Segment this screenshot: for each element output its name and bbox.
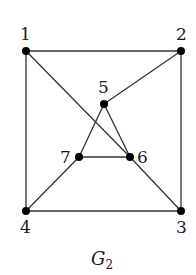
edge-5-7 xyxy=(79,104,104,157)
node-5 xyxy=(100,100,108,108)
node-2 xyxy=(177,47,185,55)
node-label-3: 3 xyxy=(176,217,187,237)
graph-title: G2 xyxy=(91,248,113,272)
edge-1-6 xyxy=(26,51,130,157)
node-4 xyxy=(22,207,30,215)
node-6 xyxy=(126,153,134,161)
node-label-4: 4 xyxy=(20,217,31,237)
title-main: G xyxy=(91,248,105,269)
edge-7-4 xyxy=(26,157,79,211)
edge-5-6 xyxy=(104,104,130,157)
edge-2-5 xyxy=(104,51,181,104)
node-label-7: 7 xyxy=(60,147,71,167)
title-subscript: 2 xyxy=(105,258,113,272)
graph-diagram: 1234567 G2 xyxy=(0,0,196,275)
edges xyxy=(26,51,181,211)
node-label-5: 5 xyxy=(98,77,109,97)
node-label-2: 2 xyxy=(176,24,187,44)
node-1 xyxy=(22,47,30,55)
node-label-6: 6 xyxy=(137,147,148,167)
node-3 xyxy=(177,207,185,215)
node-label-1: 1 xyxy=(20,24,31,44)
node-7 xyxy=(75,153,83,161)
